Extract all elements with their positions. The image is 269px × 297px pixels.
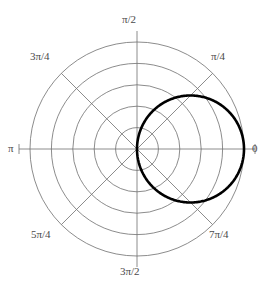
theta-label-5pi-over-4: 5π/4	[31, 229, 51, 240]
polar-plot-canvas	[0, 0, 269, 297]
theta-label-3pi-over-4: 3π/4	[30, 51, 50, 62]
theta-label-pi: π	[8, 143, 14, 154]
theta-label-7pi-over-4: 7π/4	[209, 229, 229, 240]
polar-plot-figure: π/2 3π/4 π/4 π 0 5π/4 7π/4 3π/2	[0, 0, 269, 297]
theta-label-pi-over-2: π/2	[122, 14, 136, 25]
theta-label-zero: 0	[252, 143, 258, 154]
theta-label-pi-over-4: π/4	[211, 51, 225, 62]
theta-label-3pi-over-2: 3π/2	[120, 266, 140, 277]
